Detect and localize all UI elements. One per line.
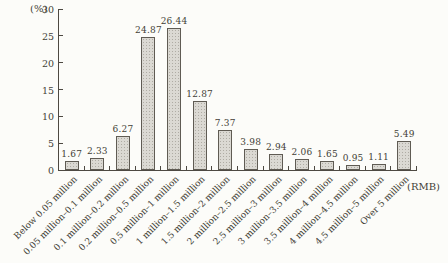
bar [372,164,386,170]
bar-value-label: 1.65 [317,149,338,159]
bar [193,101,207,170]
bar [218,130,232,170]
y-tick-label: 5 [48,138,54,149]
bar [116,136,130,170]
y-tick-label: 20 [42,57,54,68]
bar-value-label: 2.94 [266,142,287,152]
plot-area: 051015202530Below 0.05 million1.670.05 m… [58,9,417,171]
bar-slot: 26.44 [161,9,187,170]
bar-slot: 24.87 [136,9,162,170]
bar-value-label: 2.33 [87,146,108,156]
bar-value-label: 3.98 [240,137,261,147]
bar-slot: 12.87 [187,9,213,170]
bar-slot: 6.27 [110,9,136,170]
bar-value-label: 26.44 [161,16,188,26]
bar [167,28,181,170]
bar-slot: 0.95 [340,9,366,170]
bar-value-label: 2.06 [292,147,313,157]
bar-slot: 1.11 [366,9,392,170]
bar-value-label: 5.49 [394,129,415,139]
bar [141,37,155,170]
bar-slot: 3.98 [238,9,264,170]
bar [295,159,309,170]
x-axis-unit-label: (RMB) [407,181,440,192]
bar-value-label: 1.11 [368,152,389,162]
bar-value-label: 12.87 [186,89,213,99]
bar-value-label: 24.87 [135,25,162,35]
bar [269,154,283,170]
y-tick-label: 25 [42,30,54,41]
bar-value-label: 0.95 [343,153,364,163]
bar [90,158,104,171]
y-tick-label: 15 [42,84,54,95]
bar-slot: 7.37 [212,9,238,170]
bar-value-label: 1.67 [61,149,82,159]
y-tick-label: 10 [42,111,54,122]
bar-slot: 2.94 [264,9,290,170]
y-tick-label: 0 [48,165,54,176]
bar [320,161,334,170]
bar-slot: 2.33 [85,9,111,170]
bar-slot: 1.67 [59,9,85,170]
bar-slot: 1.65 [315,9,341,170]
bar [346,165,360,170]
bar-value-label: 7.37 [215,118,236,128]
bar-slot: 2.06 [289,9,315,170]
bar-value-label: 6.27 [113,124,134,134]
chart-figure: (%) 051015202530Below 0.05 million1.670.… [0,0,448,263]
bar [397,141,411,170]
y-tick-label: 30 [42,4,54,15]
bar-slot: 5.49 [391,9,417,170]
bar [65,161,79,170]
bar [244,149,258,170]
